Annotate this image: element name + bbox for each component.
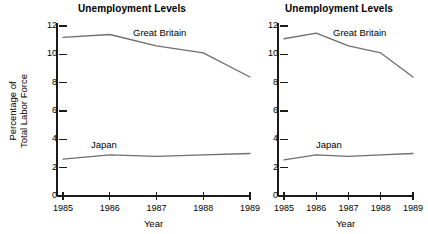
x-axis-title-left: Year (57, 218, 250, 229)
y-tick-label-2: 2 (35, 162, 57, 172)
y-tick-marks-right (280, 26, 288, 196)
x-tick-label-1987: 1987 (331, 203, 367, 213)
y-tick-label-0: 0 (35, 190, 57, 200)
series-annotation-japan-left: Japan (91, 139, 117, 150)
x-tick-label-1987: 1987 (139, 203, 175, 213)
series-line-japan-right (284, 154, 413, 160)
series-line-great-britain-left (63, 35, 250, 78)
series-line-great-britain-right (284, 33, 413, 77)
y-tick-label-2: 2 (256, 162, 278, 172)
y-tick-label-8: 8 (256, 77, 278, 87)
x-tick-label-1985: 1985 (45, 203, 81, 213)
y-tick-label-8: 8 (35, 77, 57, 87)
y-tick-label-6: 6 (35, 105, 57, 115)
chart-panel-right: Unemployment Levels 024681012 1985198619… (258, 0, 420, 234)
series-line-japan-left (63, 154, 250, 160)
y-tick-label-10: 10 (256, 48, 278, 58)
y-tick-label-6: 6 (256, 105, 278, 115)
y-tick-label-12: 12 (35, 20, 57, 30)
y-tick-label-0: 0 (256, 190, 278, 200)
series-annotation-japan-right: Japan (316, 139, 342, 150)
x-tick-label-1985: 1985 (266, 203, 302, 213)
x-axis-title-right: Year (278, 218, 413, 229)
chart-panel-left: Unemployment Levels Percentage of Total … (0, 0, 258, 234)
x-tick-label-1986: 1986 (298, 203, 334, 213)
x-tick-label-1988: 1988 (363, 203, 399, 213)
x-tick-label-1989: 1989 (395, 203, 428, 213)
y-tick-label-4: 4 (35, 133, 57, 143)
x-tick-label-1988: 1988 (185, 203, 221, 213)
y-tick-label-4: 4 (256, 133, 278, 143)
series-annotation-great-britain-left: Great Britain (133, 27, 186, 38)
y-tick-marks-left (59, 26, 67, 196)
y-tick-label-10: 10 (35, 48, 57, 58)
series-annotation-great-britain-right: Great Britain (333, 27, 386, 38)
y-tick-label-12: 12 (256, 20, 278, 30)
x-tick-label-1986: 1986 (92, 203, 128, 213)
